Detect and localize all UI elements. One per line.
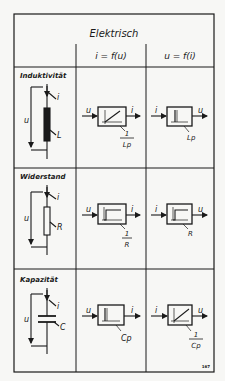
svg-text:i: i [57,93,60,102]
svg-text:R: R [57,223,63,232]
figure-number: 167 [202,364,211,369]
table-frame [14,14,214,372]
row-label: Kapazität [20,276,58,284]
svg-text:u: u [24,214,29,223]
capacitor-symbol-icon [31,288,59,354]
svg-text:u: u [198,106,203,115]
svg-text:i: i [131,205,134,214]
svg-text:u: u [24,315,29,324]
row-label: Induktivität [20,72,67,80]
svg-text:Lp: Lp [187,134,196,142]
svg-text:Cp: Cp [121,334,132,343]
svg-text:u: u [86,106,91,115]
inductor-symbol-icon [31,84,56,159]
resistor-symbol-icon [31,185,56,255]
row-label: Widerstand [20,173,67,181]
svg-text:u: u [86,205,91,214]
svg-text:R: R [188,230,193,238]
svg-text:i: i [57,302,60,311]
svg-text:u: u [24,116,29,125]
svg-text:Lp: Lp [123,141,132,149]
svg-text:1: 1 [125,230,129,238]
svg-text:L: L [57,131,61,140]
svg-text:i: i [57,193,60,202]
svg-text:1: 1 [194,331,198,339]
header-col-current: i = f(u) [95,51,127,61]
svg-text:i: i [131,306,134,315]
row-inductance: Induktivität i L u u i 1 Lp [20,72,207,159]
svg-text:R: R [125,241,130,249]
header-col-voltage: u = f(i) [164,51,196,61]
row-capacitance: Kapazität i C u u i Cp [20,276,207,354]
svg-text:i: i [155,306,158,315]
svg-text:1: 1 [125,130,129,138]
header-title: Elektrisch [90,28,139,39]
row-resistance: Widerstand i R u u i 1 R [20,173,207,255]
svg-text:u: u [86,306,91,315]
svg-text:C: C [60,323,66,332]
svg-text:i: i [131,106,134,115]
svg-text:i: i [155,205,158,214]
svg-text:u: u [198,306,203,315]
svg-text:i: i [155,106,158,115]
diagram-table: Elektrisch i = f(u) u = f(i) Induktivitä… [0,0,225,381]
svg-text:Cp: Cp [191,342,201,350]
svg-text:u: u [198,205,203,214]
